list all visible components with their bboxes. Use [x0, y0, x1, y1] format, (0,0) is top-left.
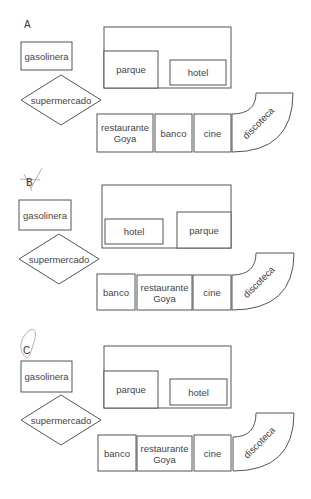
- gasolinera-label: gasolinera: [25, 51, 70, 62]
- restaurante-goya-box: restauranteGoya: [97, 114, 153, 152]
- panel-b: Bgasolinerasupermercadohotelparquebancor…: [19, 177, 294, 310]
- gasolinera-label: gasolinera: [25, 371, 70, 382]
- parque-box: parque: [104, 371, 158, 408]
- gasolinera-box: gasolinera: [21, 361, 72, 392]
- restaurante-label: restaurante: [140, 282, 188, 293]
- restaurante-goya-box: restauranteGoya: [137, 275, 192, 310]
- parque-label: parque: [116, 384, 146, 395]
- discoteca-shape: discoteca: [232, 93, 293, 152]
- hotel-box: hotel: [105, 219, 163, 244]
- discoteca-shape: discoteca: [232, 253, 294, 310]
- parque-label: parque: [189, 225, 219, 236]
- supermercado-label: supermercado: [31, 415, 92, 426]
- restaurante-label: restaurante: [101, 122, 149, 133]
- gasolinera-box: gasolinera: [19, 200, 71, 230]
- banco-label: banco: [161, 128, 187, 139]
- discoteca-shape: discoteca: [233, 413, 294, 471]
- city-block: hotelparque: [102, 185, 231, 248]
- hotel-box: hotel: [170, 379, 227, 405]
- cine-box: cine: [194, 114, 231, 152]
- restaurante-goya-box: restauranteGoya: [137, 436, 192, 471]
- city-block: parquehotel: [104, 27, 231, 88]
- banco-label: banco: [103, 287, 129, 298]
- parque-box: parque: [177, 212, 231, 248]
- supermercado-diamond: supermercado: [21, 395, 101, 445]
- cine-label: cine: [204, 128, 221, 139]
- goya-label: Goya: [153, 293, 176, 304]
- supermercado-diamond: supermercado: [21, 75, 101, 125]
- city-block: parquehotel: [104, 346, 231, 408]
- banco-label: banco: [104, 448, 130, 459]
- gasolinera-label: gasolinera: [23, 210, 68, 221]
- cine-label: cine: [203, 287, 220, 298]
- restaurante-label: restaurante: [140, 443, 188, 454]
- cine-box: cine: [194, 435, 231, 471]
- parque-label: parque: [116, 64, 146, 75]
- hotel-label: hotel: [188, 387, 209, 398]
- supermercado-diamond: supermercado: [19, 234, 99, 284]
- panel-letter: A: [24, 19, 31, 30]
- cine-label: cine: [204, 448, 221, 459]
- parque-box: parque: [104, 51, 158, 88]
- panel-letter: B: [26, 177, 33, 188]
- goya-label: Goya: [114, 133, 137, 144]
- hotel-box: hotel: [170, 60, 226, 85]
- hotel-label: hotel: [188, 67, 209, 78]
- banco-box: banco: [98, 435, 136, 471]
- panel-a: Agasolinerasupermercadoparquehotelrestau…: [21, 19, 293, 152]
- supermercado-label: supermercado: [29, 254, 90, 265]
- gasolinera-box: gasolinera: [21, 42, 72, 70]
- panel-letter: C: [23, 345, 30, 356]
- banco-box: banco: [155, 114, 192, 152]
- cine-box: cine: [193, 275, 231, 310]
- banco-box: banco: [97, 274, 135, 310]
- supermercado-label: supermercado: [31, 95, 92, 106]
- map-diagram: Agasolinerasupermercadoparquehotelrestau…: [0, 0, 311, 499]
- panel-c: Cgasolinerasupermercadoparquehotelbancor…: [21, 345, 294, 471]
- goya-label: Goya: [153, 454, 176, 465]
- hotel-label: hotel: [124, 226, 145, 237]
